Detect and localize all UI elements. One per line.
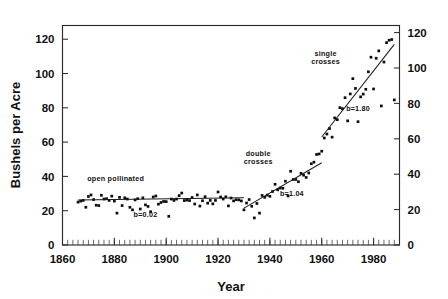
data-point xyxy=(123,196,126,199)
data-point xyxy=(307,172,310,175)
data-point xyxy=(274,183,277,186)
data-point xyxy=(235,198,238,201)
data-point xyxy=(201,199,204,202)
data-point xyxy=(385,41,388,44)
data-point xyxy=(84,206,87,209)
data-point xyxy=(160,201,163,204)
data-point xyxy=(349,93,352,96)
data-point xyxy=(390,38,393,41)
y-tick-label-right: 100 xyxy=(408,62,427,74)
data-point xyxy=(167,215,170,218)
x-tick-label: 1880 xyxy=(102,253,128,265)
data-point xyxy=(320,150,323,153)
data-point xyxy=(346,120,349,123)
y-tick-label-left: 80 xyxy=(42,102,55,114)
data-point xyxy=(243,209,246,212)
corn-yield-scatter-chart: 020406080100120 020406080100120 18601880… xyxy=(0,0,448,299)
data-point xyxy=(193,203,196,206)
data-point xyxy=(110,195,113,198)
chart-figure: 020406080100120 020406080100120 18601880… xyxy=(0,0,448,299)
data-series-layer xyxy=(77,38,396,219)
series-open-pollinated-era xyxy=(77,191,246,218)
data-point xyxy=(147,205,150,208)
data-point xyxy=(372,88,375,91)
data-point xyxy=(97,204,100,207)
y-axis-left-ticks xyxy=(63,39,69,245)
data-point xyxy=(237,199,240,202)
data-point xyxy=(364,88,367,91)
data-point xyxy=(256,202,259,205)
x-tick-label: 1900 xyxy=(153,253,179,265)
data-point xyxy=(351,77,354,80)
y-tick-label-left: 60 xyxy=(42,136,55,148)
trendline-layer xyxy=(78,44,394,208)
x-tick-label: 1920 xyxy=(205,253,231,265)
y-tick-label-right: 40 xyxy=(408,168,421,180)
data-point xyxy=(331,136,334,139)
y-tick-label-left: 40 xyxy=(42,171,55,183)
data-point xyxy=(253,217,256,220)
annotation-double-crosses-line2: crosses xyxy=(244,157,273,166)
data-point xyxy=(212,202,215,205)
data-point xyxy=(121,204,124,207)
data-point xyxy=(250,205,253,208)
data-point xyxy=(209,199,212,202)
data-point xyxy=(214,199,217,202)
y-tick-label-right: 80 xyxy=(408,98,421,110)
data-point xyxy=(362,93,365,96)
data-point xyxy=(323,137,326,140)
y-axis-right-ticks xyxy=(394,33,400,245)
data-point xyxy=(289,170,292,173)
data-point xyxy=(95,204,98,207)
y-axis-title: Bushels per Acre xyxy=(8,82,23,188)
data-point xyxy=(154,195,157,198)
data-point xyxy=(354,87,357,90)
y-axis-right-tick-labels: 020406080100120 xyxy=(408,27,427,251)
data-point xyxy=(113,200,116,203)
data-point xyxy=(180,192,183,195)
data-point xyxy=(118,196,121,199)
data-point xyxy=(204,195,207,198)
data-point xyxy=(178,194,181,197)
data-point xyxy=(245,202,248,205)
data-point xyxy=(157,203,160,206)
data-point xyxy=(310,162,313,165)
data-point xyxy=(232,200,235,203)
y-tick-label-right: 0 xyxy=(408,239,414,251)
annotation-slope-double-crosses: b=1.04 xyxy=(280,189,304,198)
data-point xyxy=(240,200,243,203)
x-axis-tick-labels: 1860188019001920194019601980 xyxy=(50,253,387,265)
data-point xyxy=(344,96,347,99)
data-point xyxy=(388,39,391,42)
data-point xyxy=(206,202,209,205)
data-point xyxy=(188,199,191,202)
data-point xyxy=(196,194,199,197)
y-tick-label-left: 0 xyxy=(48,239,54,251)
data-point xyxy=(393,99,396,102)
data-point xyxy=(217,191,220,194)
data-point xyxy=(357,120,360,123)
data-point xyxy=(173,199,176,202)
data-point xyxy=(269,195,272,198)
y-tick-label-right: 20 xyxy=(408,204,421,216)
data-point xyxy=(339,106,342,109)
data-point xyxy=(370,56,373,59)
data-point xyxy=(380,105,383,108)
annotation-slope-single-crosses: b=1.80 xyxy=(346,104,370,113)
annotation-slope-open-pollinated: b=0.02 xyxy=(134,210,158,219)
data-point xyxy=(258,212,261,215)
annotation-open-pollinated: open pollinated xyxy=(87,174,144,183)
x-tick-label: 1960 xyxy=(309,253,335,265)
data-point xyxy=(116,212,119,215)
x-tick-label: 1980 xyxy=(361,253,387,265)
y-tick-label-left: 120 xyxy=(35,33,54,45)
data-point xyxy=(359,95,362,98)
data-point xyxy=(326,133,329,136)
data-point xyxy=(315,153,318,156)
data-point xyxy=(144,204,147,207)
data-point xyxy=(383,61,386,64)
data-point xyxy=(152,196,155,199)
data-point xyxy=(377,50,380,53)
x-tick-label: 1860 xyxy=(50,253,76,265)
y-axis-left-tick-labels: 020406080100120 xyxy=(35,33,54,251)
